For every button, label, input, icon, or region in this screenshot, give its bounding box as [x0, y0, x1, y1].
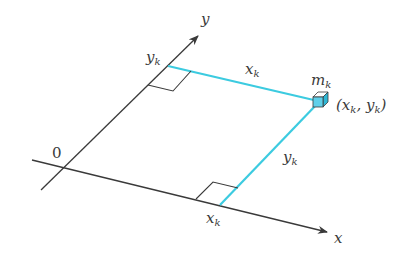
horizontal-segment-label: xk [245, 60, 260, 79]
mass-cube-icon [313, 92, 328, 107]
x-axis [32, 160, 327, 232]
y-tick-label: yk [145, 48, 161, 67]
x-tick-label: xk [206, 209, 221, 228]
mass-label: mk [311, 71, 331, 90]
x-axis-label: x [334, 229, 343, 247]
y-distance-line [220, 103, 318, 205]
y-axis [41, 36, 198, 190]
coordinate-diagram: y x 0 yk xk xk yk mk (xk, yk) [0, 0, 416, 264]
right-angle-marker-y [148, 71, 191, 91]
right-angle-marker-x [196, 182, 238, 199]
vertical-segment-label: yk [282, 148, 298, 167]
y-axis-label: y [200, 10, 210, 28]
point-coordinates: (xk, yk) [336, 96, 386, 115]
origin-label: 0 [52, 144, 62, 162]
